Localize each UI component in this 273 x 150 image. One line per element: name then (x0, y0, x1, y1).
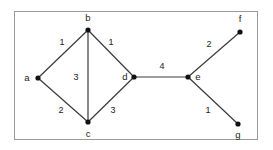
graph-node (35, 75, 40, 80)
node-label: c (86, 128, 91, 139)
node-label: g (235, 129, 240, 140)
graph-node (85, 27, 90, 32)
edge-weight-label: 3 (110, 105, 115, 115)
graph-node (131, 74, 136, 79)
edge-weight-label: 4 (159, 61, 164, 71)
node-label: d (122, 71, 127, 82)
edge-weight-label: 1 (205, 105, 210, 115)
graph-canvas: 11323421 abcdefg (0, 0, 273, 150)
graph-node (85, 119, 90, 124)
edge-weight-label: 1 (108, 37, 113, 47)
graph-node (237, 29, 242, 34)
edge-weight-label: 2 (58, 105, 63, 115)
graph-edge (38, 78, 88, 122)
graph-edge (88, 77, 134, 122)
graph-node (185, 74, 190, 79)
node-label: e (195, 71, 200, 82)
graph-figure: 11323421 abcdefg (0, 0, 273, 150)
node-label: b (85, 12, 90, 23)
node-label: f (239, 13, 242, 24)
node-label: a (24, 72, 30, 83)
graph-edge (188, 77, 238, 124)
graph-node (235, 121, 240, 126)
edge-weight-label: 3 (73, 72, 78, 82)
edge-weight-label: 2 (206, 39, 211, 49)
edge-weight-label: 1 (59, 37, 64, 47)
